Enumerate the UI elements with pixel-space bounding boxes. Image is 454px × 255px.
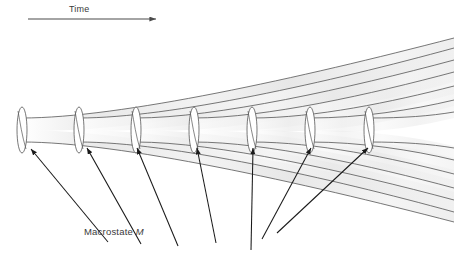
macrostate-ellipse-4 xyxy=(189,107,199,153)
macrostate-ellipse-7 xyxy=(364,107,374,153)
macrostate-caption-prefix: Macrostate xyxy=(84,226,136,237)
macrostate-ellipse-2 xyxy=(74,107,84,153)
macrostate-caption-symbol: M xyxy=(136,226,144,237)
macrostate-branching-diagram xyxy=(0,0,454,255)
macrostate-ellipse-6 xyxy=(305,107,315,153)
macrostate-ellipse-5 xyxy=(247,107,257,153)
macrostate-ellipse-3 xyxy=(131,107,141,153)
lower-shaded-bands xyxy=(22,130,454,222)
macrostate-caption: Macrostate M xyxy=(84,226,144,237)
time-axis-label: Time xyxy=(69,4,89,14)
macrostate-ellipse-1 xyxy=(17,107,27,153)
